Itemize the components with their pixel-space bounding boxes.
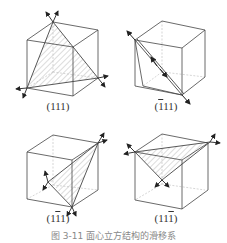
panel-label-1bar11: (111) [28,212,88,224]
fcc-slip-systems-diagram [0,0,227,243]
figure-caption: 图 3-11 面心立方结构的滑移系 [0,229,227,242]
panel-1bar11 [27,133,107,216]
hidden-edges [143,21,205,86]
cube-edges [135,21,205,95]
panel-label-111: (111) [28,100,88,112]
panel-bar111 [127,21,205,104]
panel-111 [16,11,108,98]
slip-plane-11bar1 [135,142,210,180]
slip-plane-111 [27,22,98,88]
panel-label-bar111: (111) [136,100,196,112]
panel-label-11bar1: (111) [136,212,196,224]
panel-11bar1 [124,134,220,209]
